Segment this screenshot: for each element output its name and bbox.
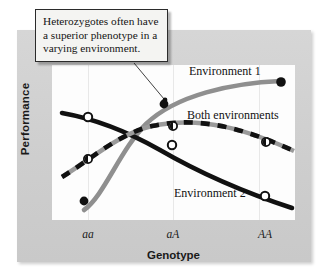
callout-box: Heterozygotes often have a superior phen…	[35, 9, 168, 62]
series-path-both-environments-dashes	[62, 122, 294, 177]
x-axis-title: Genotype	[52, 249, 295, 261]
marker-environment-1-AA	[276, 77, 286, 87]
marker-both-environments-AA	[262, 138, 270, 146]
figure-container: Environment 1 Both environments Environm…	[0, 0, 335, 280]
callout-text: Heterozygotes often have a superior phen…	[43, 15, 161, 56]
x-tick-aA: aA	[153, 228, 193, 240]
series-label-environment-2: Environment 2	[174, 186, 246, 201]
callout-leader-line	[134, 63, 164, 99]
x-tick-AA: AA	[245, 228, 285, 240]
y-axis-title: Performance	[19, 76, 31, 162]
marker-both-environments-aa	[84, 155, 92, 163]
marker-environment-2-AA	[261, 192, 269, 200]
x-tick-aa: aa	[68, 228, 108, 240]
marker-environment-1-aA	[160, 100, 169, 109]
marker-environment-2-aa	[84, 113, 92, 121]
marker-environment-2-aA	[168, 141, 176, 149]
marker-environment-1-aa	[80, 197, 89, 206]
marker-both-environments-aA	[169, 122, 177, 130]
series-label-both-environments: Both environments	[187, 108, 279, 123]
series-label-environment-1: Environment 1	[189, 64, 261, 79]
series-path-both-environments-base	[62, 122, 294, 177]
